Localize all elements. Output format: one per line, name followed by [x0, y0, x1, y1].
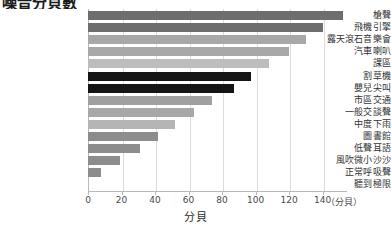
category-label: 露天滾石音樂會 [305, 33, 391, 46]
category-label: 正常呼吸聲 [305, 166, 391, 179]
bar-row: 聽到極限 [0, 178, 391, 191]
bar [88, 108, 194, 117]
bar [88, 59, 269, 68]
category-label: 一般交談聲 [305, 106, 391, 119]
bar [88, 156, 120, 165]
x-tick-label-120: 120 [280, 195, 297, 205]
category-label: 中度下雨 [305, 118, 391, 131]
x-tick-label-60: 60 [183, 195, 194, 205]
bar-row: 汽車喇叭 [0, 45, 391, 58]
x-tick-label-0: 0 [85, 195, 91, 205]
bar-row: 槍聲 [0, 9, 391, 22]
x-tick-label-40: 40 [149, 195, 160, 205]
category-label: 風吹微小沙沙 [305, 154, 391, 167]
category-label: 課區 [305, 57, 391, 70]
bar-row: 中度下雨 [0, 118, 391, 131]
bar [88, 23, 323, 32]
category-label: 聽到極限 [305, 178, 391, 191]
bar [88, 96, 212, 105]
chart-title: 噪音分貝數 [2, 0, 77, 9]
bar-row: 低聲耳語 [0, 142, 391, 155]
bar-row: 正常呼吸聲 [0, 166, 391, 179]
bar [88, 144, 140, 153]
bar-row: 圖書館 [0, 130, 391, 143]
bar-chart: 噪音分貝數 槍聲飛機引擎露天滾石音樂會汽車喇叭課區割草機嬰兒尖叫市區交通一般交談… [0, 0, 391, 228]
bar-row: 一般交談聲 [0, 106, 391, 119]
bar [88, 84, 234, 93]
bar-row: 割草機 [0, 70, 391, 83]
bar-row: 嬰兒尖叫 [0, 82, 391, 95]
bar [88, 11, 343, 20]
category-label: 汽車喇叭 [305, 45, 391, 58]
bar [88, 168, 101, 177]
x-tick-label-80: 80 [216, 195, 227, 205]
bar-row: 課區 [0, 57, 391, 70]
category-label: 圖書館 [305, 130, 391, 143]
x-tick-label-20: 20 [116, 195, 127, 205]
category-label: 市區交通 [305, 94, 391, 107]
category-label: 低聲耳語 [305, 142, 391, 155]
category-label: 嬰兒尖叫 [305, 82, 391, 95]
category-label: 割草機 [305, 70, 391, 83]
x-tick-label-100: 100 [247, 195, 264, 205]
bar-row: 市區交通 [0, 94, 391, 107]
bar [88, 72, 251, 81]
bar [88, 120, 175, 129]
bar [88, 47, 289, 56]
bar-row: 飛機引擎 [0, 21, 391, 34]
bar-row: 露天滾石音樂會 [0, 33, 391, 46]
x-axis-title: 分貝 [0, 208, 391, 224]
x-axis-unit: （分貝） [326, 195, 362, 208]
bar [88, 132, 158, 141]
bar [88, 35, 306, 44]
bar-row: 風吹微小沙沙 [0, 154, 391, 167]
